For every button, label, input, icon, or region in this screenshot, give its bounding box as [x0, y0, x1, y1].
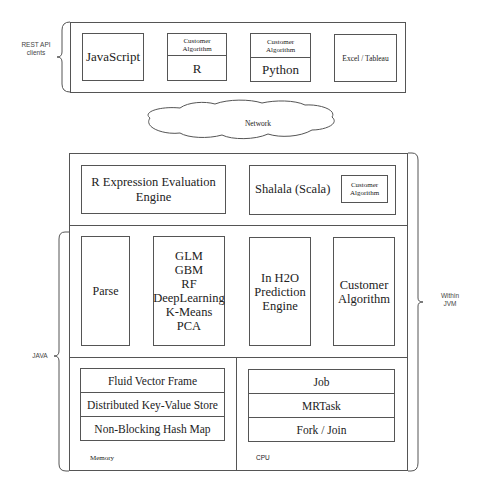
custom-line1: Customer: [340, 278, 389, 292]
parse-module: Parse: [81, 236, 130, 346]
java-label: JAVA: [28, 352, 52, 359]
cpu-row-mrtask: MRTask: [249, 394, 394, 418]
model-rf: RF: [181, 277, 196, 291]
prediction-line1: In H2O: [261, 271, 299, 285]
cpu-row-fork-join: Fork / Join: [249, 418, 394, 441]
cpu-row-label: Fork / Join: [297, 424, 347, 436]
cpu-label-text: CPU: [256, 454, 270, 461]
memory-row-fluid-vector-frame: Fluid Vector Frame: [81, 369, 224, 393]
shalala-customer-algorithm: Customer Algorithm: [341, 175, 388, 203]
prediction-line2: Prediction: [254, 285, 305, 299]
ml-models-module: GLM GBM RF DeepLearning K-Means PCA: [153, 236, 225, 346]
cpu-stack: Job MRTask Fork / Join: [248, 369, 395, 442]
model-kmeans: K-Means: [166, 305, 213, 319]
parse-label: Parse: [93, 284, 119, 299]
java-label-text: JAVA: [32, 352, 47, 359]
model-glm: GLM: [175, 249, 203, 263]
memory-stack: Fluid Vector Frame Distributed Key-Value…: [80, 368, 225, 441]
cpu-row-label: MRTask: [302, 400, 341, 412]
shalala-label: Shalala (Scala): [255, 182, 330, 197]
memory-row-distributed-kv-store: Distributed Key-Value Store: [81, 393, 224, 417]
shalala-inner-line2: Algorithm: [350, 189, 379, 197]
custom-line2: Algorithm: [338, 292, 390, 306]
jvm-divider-vertical: [236, 357, 237, 471]
r-engine-line1: R Expression Evaluation: [91, 175, 215, 190]
cpu-label: CPU: [256, 454, 270, 461]
model-pca: PCA: [177, 319, 201, 333]
h2o-prediction-engine: In H2O Prediction Engine: [249, 237, 311, 346]
shalala-inner-line1: Customer: [351, 181, 378, 189]
cpu-row-label: Job: [314, 376, 330, 388]
customer-algorithm-module: Customer Algorithm: [333, 237, 395, 346]
memory-row-label: Distributed Key-Value Store: [87, 399, 218, 411]
jvm-divider-middle: [69, 357, 408, 358]
r-engine-line2: Engine: [136, 190, 171, 205]
java-brace-icon: [0, 0, 477, 499]
model-deeplearning: DeepLearning: [153, 291, 225, 305]
model-gbm: GBM: [175, 263, 203, 277]
memory-row-nonblocking-hash-map: Non-Blocking Hash Map: [81, 417, 224, 440]
shalala-label-text: Shalala (Scala): [255, 182, 330, 196]
memory-row-label: Fluid Vector Frame: [108, 375, 197, 387]
memory-row-label: Non-Blocking Hash Map: [94, 423, 210, 435]
prediction-line3: Engine: [262, 299, 297, 313]
shalala-scala-engine: Shalala (Scala) Customer Algorithm: [249, 165, 396, 215]
memory-label: Memory: [90, 454, 114, 462]
jvm-divider-top: [69, 225, 408, 226]
r-expression-engine: R Expression Evaluation Engine: [81, 165, 226, 214]
cpu-row-job: Job: [249, 370, 394, 394]
memory-label-text: Memory: [90, 454, 114, 462]
